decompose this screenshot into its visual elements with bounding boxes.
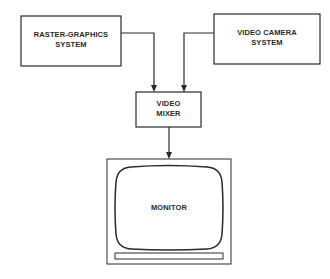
video-camera-label: VIDEO CAMERA SYSTEM [214, 28, 320, 48]
video-mixer-label: VIDEO MIXER [136, 99, 201, 119]
raster-graphics-label: RASTER-GRAPHICS SYSTEM [21, 30, 121, 50]
camera-to-mixer-arrow [184, 33, 214, 86]
monitor-control-slot [115, 253, 223, 259]
arrowhead-icon [151, 85, 157, 92]
monitor-label: MONITOR [116, 203, 222, 213]
arrowhead-icon [181, 85, 187, 92]
raster-to-mixer-arrow [121, 33, 154, 86]
arrowhead-icon [166, 152, 172, 159]
